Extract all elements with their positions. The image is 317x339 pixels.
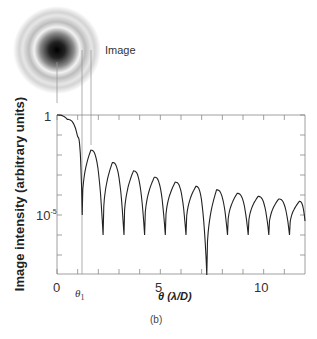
figure-caption: (b) bbox=[150, 314, 162, 325]
intensity-curve bbox=[57, 115, 305, 275]
x-axis-title: θ (λ/D) bbox=[158, 290, 192, 302]
chart-root: Image 1 10-5 0 5 10 θ1 θ (λ/D) Image int… bbox=[0, 0, 317, 339]
plot-frame bbox=[57, 115, 305, 274]
y-axis-title: Image intensity (arbitrary units) bbox=[12, 97, 27, 291]
theta1-label: θ1 bbox=[75, 287, 84, 302]
x-tick-label-0: 0 bbox=[53, 280, 60, 295]
y-tick-label-1: 1 bbox=[44, 109, 51, 124]
x-tick-label-10: 10 bbox=[254, 280, 268, 295]
y-ticks bbox=[57, 115, 305, 255]
y-tick-label-1e-5: 10-5 bbox=[36, 208, 57, 223]
image-label: Image bbox=[105, 44, 136, 56]
